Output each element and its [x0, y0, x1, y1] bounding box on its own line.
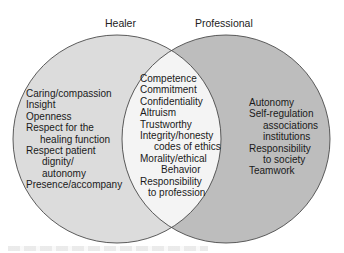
list-item: Autonomy [249, 97, 318, 108]
item-continuation: associations [249, 120, 318, 131]
item-continuation: Behavior [140, 164, 221, 175]
list-item: Insight [26, 99, 122, 110]
list-item: Teamwork [249, 165, 318, 176]
list-item: Presence/accompany [26, 179, 122, 190]
item-continuation: institutions [249, 131, 318, 142]
list-item: Trustworthy [140, 119, 221, 130]
item-text: Responsibility [249, 143, 311, 154]
list-item: Respect for the healing function [26, 122, 122, 145]
list-item: Morality/ethical Behavior [140, 153, 221, 176]
shared-items-list: Competence Commitment Confidentiality Al… [140, 73, 221, 198]
healer-items-list: Caring/compassion Insight Openness Respe… [26, 88, 122, 191]
item-text: Respect patient [26, 145, 96, 156]
item-continuation: autonomy [26, 168, 122, 179]
item-text: Autonomy [249, 97, 294, 108]
item-continuation: to profession [140, 187, 221, 198]
item-text: Altruism [140, 107, 176, 118]
list-item: Responsibility to profession [140, 176, 221, 199]
list-item: Caring/compassion [26, 88, 122, 99]
item-continuation: codes of ethics [140, 141, 221, 152]
item-text: Openness [26, 111, 72, 122]
list-item: Openness [26, 111, 122, 122]
item-text: Morality/ethical [140, 153, 207, 164]
list-item: Responsibility to society [249, 143, 318, 166]
item-text: Insight [26, 99, 55, 110]
item-text: Commitment [140, 84, 197, 95]
item-text: Teamwork [249, 165, 295, 176]
healer-set-label: Healer [105, 17, 136, 29]
item-text: Integrity/honesty [140, 130, 213, 141]
item-text: Trustworthy [140, 119, 192, 130]
item-text: Caring/compassion [26, 88, 112, 99]
professional-set-label: Professional [195, 17, 253, 29]
item-continuation: healing function [26, 134, 122, 145]
item-continuation: to society [249, 154, 318, 165]
list-item: Integrity/honesty codes of ethics [140, 130, 221, 153]
list-item: Competence [140, 73, 221, 84]
list-item: Altruism [140, 107, 221, 118]
item-continuation: dignity/ [26, 156, 122, 167]
item-text: Respect for the [26, 122, 94, 133]
item-text: Self-regulation [249, 108, 313, 119]
faded-caption [8, 246, 208, 251]
item-text: Responsibility [140, 176, 202, 187]
list-item: Respect patient dignity/ autonomy [26, 145, 122, 179]
item-text: Confidentiality [140, 96, 203, 107]
list-item: Self-regulation associations institution… [249, 108, 318, 142]
list-item: Commitment [140, 84, 221, 95]
item-text: Competence [140, 73, 197, 84]
item-text: Presence/accompany [26, 179, 122, 190]
professional-items-list: Autonomy Self-regulation associations in… [249, 97, 318, 177]
list-item: Confidentiality [140, 96, 221, 107]
